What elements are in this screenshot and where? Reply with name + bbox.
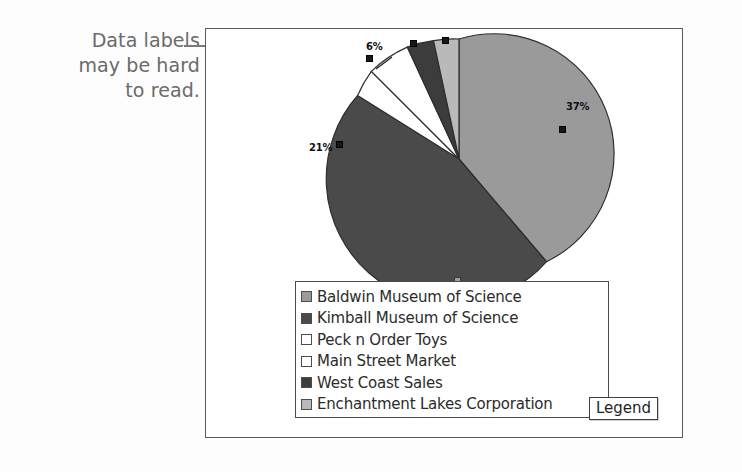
legend-swatch-icon [301, 377, 312, 388]
legend-swatch-icon [301, 291, 312, 302]
data-label-peck-n-order-toys: 21% [309, 142, 332, 153]
legend-item-baldwin-museum-of-science[interactable]: Baldwin Museum of Science [301, 286, 608, 308]
legend-item-label: Kimball Museum of Science [317, 309, 518, 327]
annotation-line-3: to read. [20, 78, 200, 103]
legend-swatch-icon [301, 313, 312, 324]
chart-frame[interactable]: 6% 37% 21% Baldwin Museum of Science Kim… [205, 28, 683, 438]
legend-item-enchantment-lakes-corporation[interactable]: Enchantment Lakes Corporation [301, 394, 608, 416]
legend-item-main-street-market[interactable]: Main Street Market [301, 351, 608, 373]
legend-item-label: Peck n Order Toys [317, 331, 447, 349]
annotation-line-1: Data labels [20, 28, 200, 53]
annotation-line-2: may be hard [20, 53, 200, 78]
selection-handle-upper-left[interactable] [366, 55, 373, 62]
legend-item-label: West Coast Sales [317, 374, 443, 392]
selection-handle-left[interactable] [336, 141, 343, 148]
legend-swatch-icon [301, 356, 312, 367]
legend-callout-tag: Legend [589, 397, 658, 420]
chart-legend[interactable]: Baldwin Museum of Science Kimball Museum… [295, 281, 609, 418]
selection-handle-top-right[interactable] [559, 126, 566, 133]
annotation-callout-text: Data labels may be hard to read. [20, 28, 200, 103]
selection-handle-top[interactable] [442, 37, 449, 44]
legend-swatch-icon [301, 399, 312, 410]
legend-item-label: Enchantment Lakes Corporation [317, 395, 553, 413]
legend-item-peck-n-order-toys[interactable]: Peck n Order Toys [301, 329, 608, 351]
data-label-baldwin-museum-of-science: 37% [566, 101, 589, 112]
legend-item-label: Main Street Market [317, 352, 456, 370]
selection-handle-upper-mid[interactable] [410, 40, 417, 47]
legend-item-label: Baldwin Museum of Science [317, 288, 522, 306]
legend-swatch-icon [301, 334, 312, 345]
data-label-main-street-market: 6% [366, 41, 383, 52]
legend-item-kimball-museum-of-science[interactable]: Kimball Museum of Science [301, 308, 608, 330]
legend-item-west-coast-sales[interactable]: West Coast Sales [301, 372, 608, 394]
